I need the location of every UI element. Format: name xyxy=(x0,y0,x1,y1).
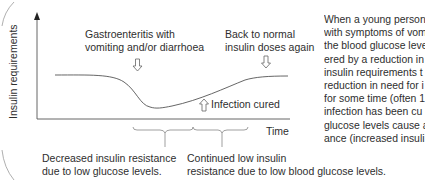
frame-corner-bottom xyxy=(2,150,14,180)
frame-corner-top xyxy=(2,2,14,26)
time-brace xyxy=(133,127,248,147)
side-line: with symptoms of vom xyxy=(324,26,425,39)
gastro-label-line-2: vomiting and/or diarrhoea xyxy=(85,41,204,54)
continued-resistance-note: Continued low insulin resistance due to … xyxy=(187,152,386,178)
side-line: insulin requirements t xyxy=(324,66,425,79)
side-line: infection has been cu xyxy=(324,105,425,118)
y-axis-arrowhead-icon xyxy=(34,12,40,20)
infection-cured-label: Infection cured xyxy=(211,98,280,111)
x-axis-label: Time xyxy=(266,125,289,138)
side-line: ance (increased insuli xyxy=(324,132,425,145)
down-arrow-icon xyxy=(133,59,142,71)
down-arrow-icon xyxy=(262,56,271,68)
side-paragraph: When a young person with symptoms of vom… xyxy=(324,13,425,145)
side-line: for some time (often 1 xyxy=(324,92,425,105)
gastro-label: Gastroenteritis with vomiting and/or dia… xyxy=(85,28,204,54)
back-to-normal-line-2: insulin doses again xyxy=(225,41,314,54)
continued-note-line-2: resistance due to low blood glucose leve… xyxy=(187,165,386,178)
back-to-normal-line-1: Back to normal xyxy=(225,28,314,41)
side-line: ered by a reduction in xyxy=(324,53,425,66)
side-line: the blood glucose leve xyxy=(324,39,425,52)
y-axis-label: Insulin requirements xyxy=(7,24,19,119)
side-line: glucose levels cause a xyxy=(324,119,425,132)
decreased-resistance-note: Decreased insulin resistance due to low … xyxy=(42,152,176,178)
side-line: reduction in need for i xyxy=(324,79,425,92)
decreased-note-line-1: Decreased insulin resistance xyxy=(42,152,176,165)
back-to-normal-label: Back to normal insulin doses again xyxy=(225,28,314,54)
up-arrow-icon xyxy=(200,99,209,111)
decreased-note-line-2: due to low glucose levels. xyxy=(42,165,176,178)
gastro-label-line-1: Gastroenteritis with xyxy=(85,28,204,41)
side-line: When a young person xyxy=(324,13,425,26)
continued-note-line-1: Continued low insulin xyxy=(187,152,386,165)
